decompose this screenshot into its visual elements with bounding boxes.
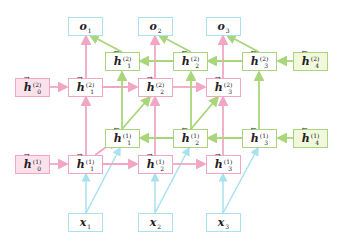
hidden-symbol: h xyxy=(215,81,223,94)
input-node-2: x2 xyxy=(138,213,173,232)
input-symbol: x xyxy=(218,216,225,229)
output-node-3: o3 xyxy=(206,17,241,36)
time-subscript: 1 xyxy=(127,62,131,69)
layer2-backward-node-1: ←h(2)1 xyxy=(105,52,140,71)
time-subscript: 0 xyxy=(37,88,41,95)
layer-superscript: (2) xyxy=(86,81,95,88)
hidden-symbol: h xyxy=(182,132,190,145)
layer-superscript: (2) xyxy=(224,81,233,88)
right-arrow-icon: → xyxy=(215,151,221,159)
layer2-forward-node-2: →h(2)2 xyxy=(138,78,173,97)
left-arrow-icon: ← xyxy=(182,125,188,133)
time-subscript: 2 xyxy=(160,165,164,172)
output-subscript: 1 xyxy=(88,27,92,34)
layer2-backward-node-2: ←h(2)2 xyxy=(173,52,208,71)
layer2-backward-node-3: ←h(2)3 xyxy=(242,52,277,71)
hidden-symbol: h xyxy=(215,158,223,171)
input-symbol: x xyxy=(150,216,157,229)
layer1-forward-node-1: →h(1)1 xyxy=(68,155,103,174)
layer1-backward-initial-node: ←h(1)4 xyxy=(293,129,328,148)
output-symbol: o xyxy=(149,20,156,33)
time-subscript: 2 xyxy=(160,88,164,95)
right-arrow-icon: → xyxy=(24,151,30,159)
left-arrow-icon: ← xyxy=(182,48,188,56)
layer-superscript: (2) xyxy=(191,55,200,62)
layer1-backward-node-3: ←h(1)3 xyxy=(242,129,277,148)
layer-superscript: (2) xyxy=(156,81,165,88)
output-symbol: o xyxy=(79,20,86,33)
right-arrow-icon: → xyxy=(147,74,153,82)
right-arrow-icon: → xyxy=(147,151,153,159)
left-arrow-icon: ← xyxy=(302,48,308,56)
left-arrow-icon: ← xyxy=(302,125,308,133)
layer1-forward-node-3: →h(1)3 xyxy=(206,155,241,174)
connection-arrows xyxy=(0,0,341,246)
hidden-symbol: h xyxy=(147,81,155,94)
layer2-backward-initial-node: ←h(2)4 xyxy=(293,52,328,71)
layer2-forward-initial-node: →h(2)0 xyxy=(15,78,50,97)
layer2-forward-node-3: →h(2)3 xyxy=(206,78,241,97)
layer-superscript: (1) xyxy=(123,132,132,139)
layer-superscript: (2) xyxy=(260,55,269,62)
left-arrow-icon: ← xyxy=(251,125,257,133)
hidden-symbol: h xyxy=(182,55,190,68)
layer-superscript: (1) xyxy=(33,158,42,165)
time-subscript: 3 xyxy=(228,165,232,172)
input-node-3: x3 xyxy=(206,213,241,232)
output-symbol: o xyxy=(217,20,224,33)
hidden-symbol: h xyxy=(147,158,155,171)
hidden-symbol: h xyxy=(251,55,259,68)
input-subscript: 1 xyxy=(87,223,91,230)
layer1-backward-node-1: ←h(1)1 xyxy=(105,129,140,148)
layer1-backward-node-2: ←h(1)2 xyxy=(173,129,208,148)
time-subscript: 3 xyxy=(264,62,268,69)
time-subscript: 1 xyxy=(90,165,94,172)
time-subscript: 2 xyxy=(195,139,199,146)
hidden-symbol: h xyxy=(24,158,32,171)
time-subscript: 1 xyxy=(90,88,94,95)
left-arrow-icon: ← xyxy=(114,48,120,56)
time-subscript: 1 xyxy=(127,139,131,146)
time-subscript: 2 xyxy=(195,62,199,69)
input-node-1: x1 xyxy=(68,213,103,232)
hidden-symbol: h xyxy=(251,132,259,145)
layer-superscript: (1) xyxy=(311,132,320,139)
left-arrow-icon: ← xyxy=(114,125,120,133)
layer2-forward-node-1: →h(2)1 xyxy=(68,78,103,97)
hidden-symbol: h xyxy=(114,132,122,145)
hidden-symbol: h xyxy=(114,55,122,68)
layer-superscript: (1) xyxy=(156,158,165,165)
time-subscript: 4 xyxy=(315,62,319,69)
time-subscript: 3 xyxy=(264,139,268,146)
layer-superscript: (1) xyxy=(260,132,269,139)
right-arrow-icon: → xyxy=(215,74,221,82)
right-arrow-icon: → xyxy=(77,151,83,159)
output-node-2: o2 xyxy=(138,17,173,36)
hidden-symbol: h xyxy=(302,132,310,145)
layer-superscript: (1) xyxy=(224,158,233,165)
output-subscript: 2 xyxy=(158,27,162,34)
hidden-symbol: h xyxy=(77,158,85,171)
time-subscript: 0 xyxy=(37,165,41,172)
hidden-symbol: h xyxy=(302,55,310,68)
input-subscript: 2 xyxy=(157,223,161,230)
output-subscript: 3 xyxy=(226,27,230,34)
layer-superscript: (2) xyxy=(123,55,132,62)
time-subscript: 3 xyxy=(228,88,232,95)
output-node-1: o1 xyxy=(68,17,103,36)
layer1-forward-initial-node: →h(1)0 xyxy=(15,155,50,174)
layer-superscript: (1) xyxy=(191,132,200,139)
time-subscript: 4 xyxy=(315,139,319,146)
input-symbol: x xyxy=(80,216,87,229)
right-arrow-icon: → xyxy=(77,74,83,82)
left-arrow-icon: ← xyxy=(251,48,257,56)
input-subscript: 3 xyxy=(225,223,229,230)
layer1-forward-node-2: →h(1)2 xyxy=(138,155,173,174)
layer-superscript: (2) xyxy=(33,81,42,88)
right-arrow-icon: → xyxy=(24,74,30,82)
hidden-symbol: h xyxy=(77,81,85,94)
layer-superscript: (1) xyxy=(86,158,95,165)
hidden-symbol: h xyxy=(24,81,32,94)
layer-superscript: (2) xyxy=(311,55,320,62)
